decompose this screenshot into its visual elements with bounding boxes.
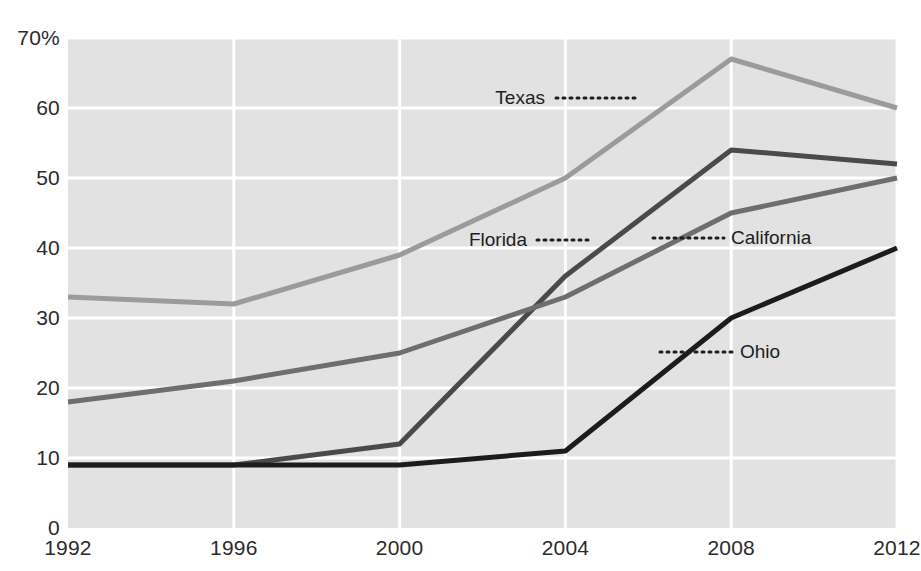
series-label-florida: Florida [469, 230, 527, 249]
x-tick-label: 2012 [873, 537, 921, 558]
x-tick-label: 2004 [542, 537, 590, 558]
series-label-texas: Texas [495, 88, 545, 107]
x-tick-label: 2000 [376, 537, 424, 558]
series-label-ohio: Ohio [740, 342, 780, 361]
x-tick-label: 1996 [210, 537, 258, 558]
series-label-california: California [731, 228, 811, 247]
x-tick-label: 1992 [44, 537, 92, 558]
x-tick-label: 2008 [707, 537, 755, 558]
